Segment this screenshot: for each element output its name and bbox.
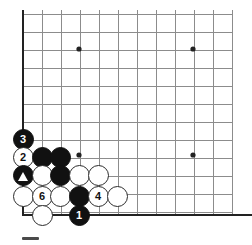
stone-black-triangle [13, 165, 34, 186]
stone-black-d [50, 165, 71, 186]
stone-black-i [69, 186, 90, 207]
stone-white-j [107, 186, 128, 207]
stone-white-f [88, 165, 109, 186]
triangle-marker-icon [18, 172, 28, 181]
stone-black-1: 1 [69, 205, 90, 226]
star-point-lower-left [76, 152, 81, 157]
move-number-label: 1 [76, 209, 82, 220]
move-number-label: 2 [20, 151, 26, 162]
move-number-label: 6 [39, 190, 45, 201]
stone-white-k [32, 205, 53, 226]
star-point-lower-right [190, 152, 195, 157]
star-point-upper-left [76, 46, 81, 51]
move-number-label: 3 [20, 133, 26, 144]
stone-white-g [13, 186, 34, 207]
star-points-group [76, 46, 195, 157]
stone-white-h [50, 186, 71, 207]
go-diagram: 32641 [0, 0, 252, 245]
move-number-label: 4 [95, 190, 101, 201]
stone-white-4: 4 [88, 186, 109, 207]
star-point-upper-right [190, 46, 195, 51]
scale-bar [22, 237, 39, 240]
stone-white-e [69, 165, 90, 186]
